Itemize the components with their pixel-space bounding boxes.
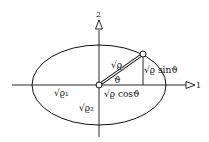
ellipse-point (140, 51, 146, 57)
radius-label: √ϱ (111, 60, 122, 70)
cosine-label: √ϱ cosϑ (104, 89, 140, 99)
semi-axis-2-label: √ϱ₂ (79, 103, 94, 113)
vertical-axis-arrow-icon (96, 20, 103, 29)
angle-label: ϑ (114, 75, 121, 85)
ellipse-diagram: 1 2 √ϱ ϑ √ϱ sinϑ √ϱ cosϑ √ϱ₁ √ϱ₂ (0, 0, 209, 142)
horizontal-axis-arrow-icon (186, 82, 195, 89)
vertical-axis-label: 2 (96, 10, 101, 19)
semi-axis-1-label: √ϱ₁ (54, 88, 69, 98)
horizontal-axis-label: 1 (196, 81, 201, 90)
center-point (96, 82, 102, 88)
sine-label: √ϱ sinϑ (144, 65, 178, 75)
